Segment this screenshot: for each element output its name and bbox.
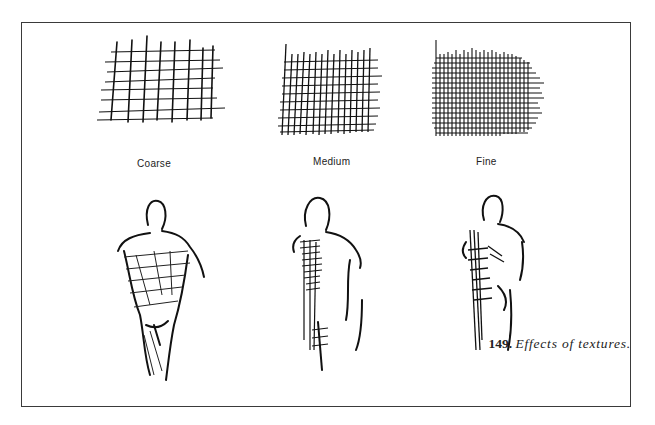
- coarse-crosshatch-swatch: [95, 30, 225, 130]
- medium-crosshatch-swatch: [278, 40, 388, 140]
- fine-label: Fine: [476, 156, 497, 167]
- coarse-label: Coarse: [137, 158, 171, 169]
- fine-crosshatch-swatch: [432, 40, 552, 140]
- medium-label: Medium: [313, 156, 350, 167]
- coarse-torso-sketch: [110, 195, 220, 385]
- figure-caption-text: Effects of textures.: [515, 336, 631, 351]
- medium-torso-sketch: [290, 190, 400, 380]
- figure-caption: 149. Effects of textures.: [488, 336, 631, 352]
- figure-number: 149.: [488, 336, 512, 351]
